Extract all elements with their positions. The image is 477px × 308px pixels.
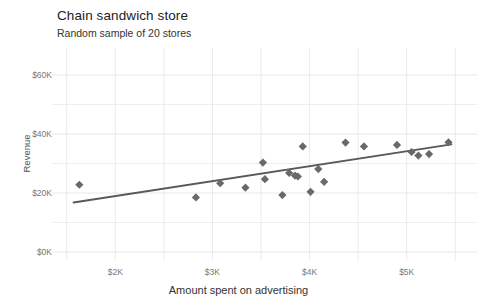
data-point — [306, 188, 314, 196]
data-point — [278, 191, 286, 199]
data-point — [259, 159, 267, 167]
data-point — [75, 181, 83, 189]
data-point — [299, 142, 307, 150]
data-point — [393, 141, 401, 149]
data-point — [261, 175, 269, 183]
data-point — [192, 193, 200, 201]
data-point — [360, 142, 368, 150]
data-point — [414, 151, 422, 159]
data-point — [425, 150, 433, 158]
gridlines — [52, 48, 477, 261]
data-points — [75, 138, 452, 201]
data-point — [241, 184, 249, 192]
data-point — [314, 165, 322, 173]
data-point — [320, 178, 328, 186]
trend-line — [74, 144, 452, 202]
data-point — [341, 138, 349, 146]
scatter-chart: Chain sandwich store Random sample of 20… — [0, 0, 477, 308]
plot-area — [0, 0, 477, 308]
